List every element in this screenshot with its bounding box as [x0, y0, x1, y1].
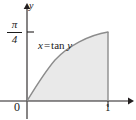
y-tick-label-pi-over-four: π 4	[7, 19, 22, 45]
x-axis-arrow-icon	[128, 98, 134, 105]
equation-operator: =	[43, 39, 51, 51]
y-axis-label: y	[29, 1, 33, 11]
origin-label: 0	[14, 101, 20, 113]
x-tick-label-one: 1	[105, 102, 111, 113]
fraction-denominator-four: 4	[7, 34, 22, 46]
equation-function-tan: tan	[51, 39, 64, 51]
curve-equation-label: x=tan y	[38, 40, 72, 51]
plot-canvas	[0, 0, 136, 120]
fraction-numerator-pi: π	[7, 19, 22, 31]
equation-argument: y	[67, 39, 72, 51]
figure-container: y 0 1 π 4 x=tan y	[0, 0, 136, 120]
